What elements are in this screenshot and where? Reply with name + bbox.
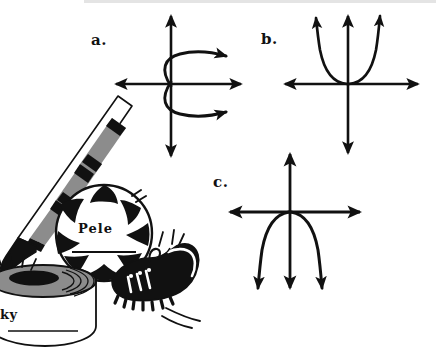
screenshot-canvas: a. b. c. Pele ky	[0, 0, 436, 363]
soccer-ball-brand-text: Pele	[78, 222, 113, 235]
graph-c-curve-right	[291, 212, 322, 288]
hockey-puck-brand-text: ky	[0, 308, 18, 321]
graph-a-curve-upper	[165, 52, 226, 86]
graph-a-curve-lower	[165, 82, 226, 116]
graph-b-curve-right	[349, 16, 380, 84]
graph-b-curve-left	[316, 18, 347, 84]
graph-b	[285, 16, 418, 153]
graph-c	[230, 154, 360, 288]
graph-label-b: b.	[261, 32, 278, 47]
graph-label-a: a.	[91, 33, 107, 48]
graph-label-c: c.	[213, 175, 228, 190]
graph-c-curve-left	[258, 212, 289, 288]
graph-a	[116, 16, 241, 156]
